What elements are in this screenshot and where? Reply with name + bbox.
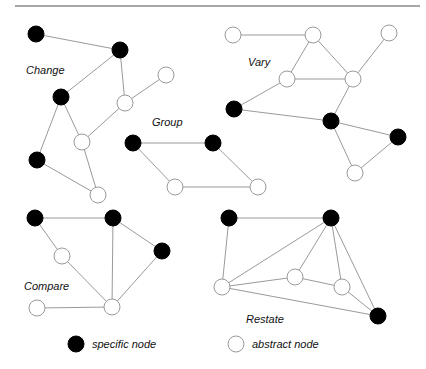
- graph-restate: Restate: [214, 210, 386, 325]
- abstract-node: [29, 300, 45, 316]
- graph-edge: [82, 103, 125, 142]
- abstract-node: [225, 27, 241, 43]
- graph-edge: [62, 256, 112, 307]
- graph-edge: [113, 218, 162, 251]
- specific-node: [205, 135, 221, 151]
- legend-specific-label: specific node: [92, 338, 156, 350]
- graph-edge: [313, 35, 353, 79]
- graph-edge: [37, 307, 112, 308]
- abstract-node: [334, 279, 350, 295]
- graph-groups: ChangeVaryGroupCompareRestate: [24, 25, 406, 325]
- graph-edge: [61, 50, 120, 97]
- abstract-node: [279, 71, 295, 87]
- graph-edge: [112, 218, 113, 307]
- diagram-canvas: ChangeVaryGroupCompareRestate specific n…: [0, 0, 426, 369]
- legend: specific node abstract node: [68, 336, 319, 352]
- graph-edge: [295, 218, 331, 277]
- graph-edge: [37, 97, 61, 160]
- graph-label-change: Change: [26, 64, 65, 76]
- graph-edge: [36, 34, 120, 50]
- graph-edge: [234, 109, 331, 121]
- abstract-node: [287, 269, 303, 285]
- specific-node: [154, 243, 170, 259]
- specific-node: [29, 152, 45, 168]
- graph-label-vary: Vary: [248, 56, 272, 68]
- specific-node: [226, 101, 242, 117]
- specific-node: [221, 210, 237, 226]
- specific-node: [105, 210, 121, 226]
- graph-edge: [222, 277, 295, 287]
- abstract-node: [305, 27, 321, 43]
- graph-edge: [133, 143, 175, 187]
- abstract-node: [117, 95, 133, 111]
- graph-group: Group: [125, 116, 266, 195]
- legend-abstract-label: abstract node: [252, 338, 319, 350]
- graph-label-restate: Restate: [246, 313, 284, 325]
- abstract-node: [54, 248, 70, 264]
- graph-change: Change: [26, 26, 174, 203]
- graph-compare: Compare: [24, 210, 170, 316]
- specific-node: [323, 113, 339, 129]
- abstract-node: [347, 165, 363, 181]
- abstract-node: [90, 187, 106, 203]
- abstract-node: [345, 71, 361, 87]
- graph-label-group: Group: [152, 116, 183, 128]
- graph-edge: [331, 121, 355, 173]
- graph-edge: [353, 33, 389, 79]
- specific-node: [390, 129, 406, 145]
- graph-edge: [222, 218, 331, 287]
- abstract-node: [214, 279, 230, 295]
- abstract-node: [74, 134, 90, 150]
- specific-node: [125, 135, 141, 151]
- graph-edge: [331, 121, 398, 137]
- abstract-node: [104, 299, 120, 315]
- specific-node: [28, 26, 44, 42]
- specific-node: [112, 42, 128, 58]
- graph-edge: [222, 218, 229, 287]
- specific-node: [27, 210, 43, 226]
- specific-node: [370, 308, 386, 324]
- abstract-node: [250, 179, 266, 195]
- graph-edge: [213, 143, 258, 187]
- graph-vary: Vary: [225, 25, 406, 181]
- graph-label-compare: Compare: [24, 280, 69, 292]
- graph-edge: [234, 79, 287, 109]
- abstract-node: [167, 179, 183, 195]
- graph-edge: [112, 251, 162, 307]
- specific-node: [323, 210, 339, 226]
- abstract-node: [381, 25, 397, 41]
- legend-abstract-node-icon: [228, 336, 244, 352]
- specific-node: [53, 89, 69, 105]
- graph-edge: [331, 218, 378, 316]
- graph-edge: [222, 287, 378, 316]
- legend-specific-node-icon: [68, 336, 84, 352]
- abstract-node: [158, 67, 174, 83]
